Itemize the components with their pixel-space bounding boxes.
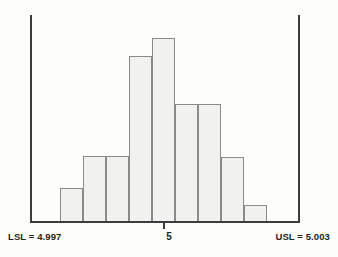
histogram-bar (221, 157, 244, 222)
histogram-bar (60, 188, 83, 222)
x-axis-center-tick (163, 223, 165, 229)
histogram-bar (198, 104, 221, 222)
histogram-bars (0, 0, 338, 257)
histogram-figure: LSL = 4.997 5 USL = 5.003 (0, 0, 338, 257)
histogram-bar (106, 156, 129, 222)
histogram-bar (175, 104, 198, 222)
histogram-bar (83, 156, 106, 222)
histogram-bar (152, 38, 175, 222)
histogram-bar (129, 56, 152, 222)
usl-label: USL = 5.003 (275, 231, 330, 242)
x-axis-baseline (30, 221, 300, 223)
histogram-bar (244, 205, 267, 222)
plot-area: LSL = 4.997 5 USL = 5.003 (0, 0, 338, 257)
